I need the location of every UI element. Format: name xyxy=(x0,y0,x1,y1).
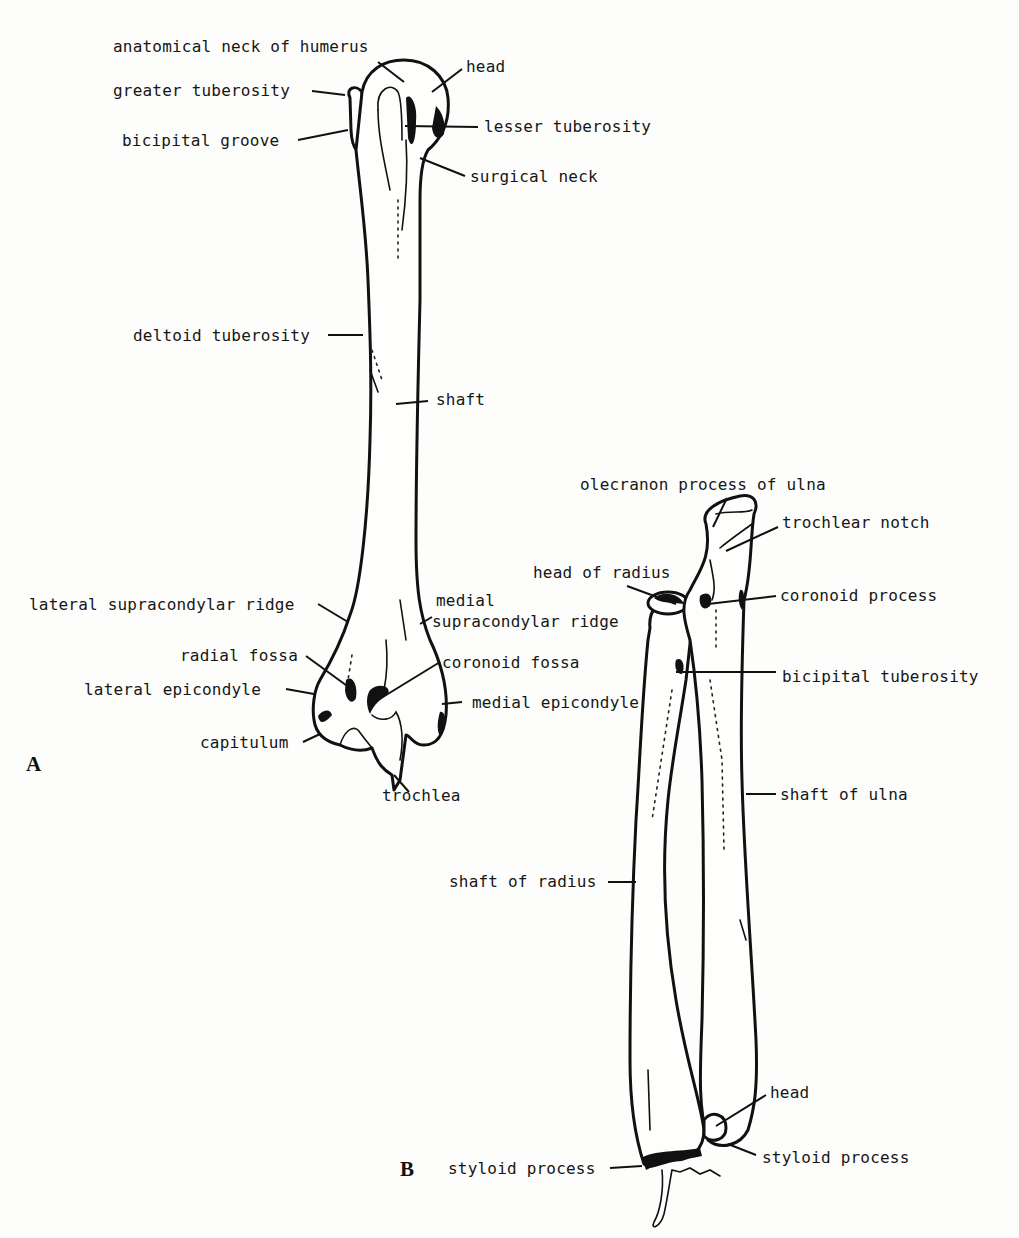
figure-letter-a: A xyxy=(26,752,41,777)
label-medial-epicondyle: medial epicondyle xyxy=(472,694,639,712)
label-trochlear-notch: trochlear notch xyxy=(782,514,930,532)
label-trochlea: trochlea xyxy=(382,787,461,805)
forearm-drawing xyxy=(630,496,757,1227)
label-head-ulna: head xyxy=(770,1084,809,1102)
label-lesser-tuberosity: lesser tuberosity xyxy=(484,118,651,136)
label-coronoid-fossa: coronoid fossa xyxy=(442,654,580,672)
label-coronoid-process: coronoid process xyxy=(780,587,937,605)
label-medial-supracondylar-ridge-line1: medial xyxy=(436,592,495,610)
label-head-of-radius: head of radius xyxy=(533,564,671,582)
label-styloid-process-radius: styloid process xyxy=(448,1160,596,1178)
anatomy-diagram: anatomical neck of humerus head greater … xyxy=(0,0,1019,1238)
label-medial-supracondylar-ridge-line2: supracondylar ridge xyxy=(432,613,619,631)
label-anatomical-neck: anatomical neck of humerus xyxy=(113,38,369,56)
signature-mark xyxy=(653,1168,720,1227)
label-shaft-of-ulna: shaft of ulna xyxy=(780,786,908,804)
label-greater-tuberosity: greater tuberosity xyxy=(113,82,290,100)
label-deltoid-tuberosity: deltoid tuberosity xyxy=(133,327,310,345)
humerus-drawing xyxy=(313,60,448,790)
label-bicipital-groove: bicipital groove xyxy=(122,132,279,150)
label-lateral-epicondyle: lateral epicondyle xyxy=(84,681,261,699)
figure-letter-b: B xyxy=(400,1157,414,1182)
label-capitulum: capitulum xyxy=(200,734,289,752)
label-surgical-neck: surgical neck xyxy=(470,168,598,186)
label-radial-fossa: radial fossa xyxy=(180,647,298,665)
label-olecranon-process: olecranon process of ulna xyxy=(580,476,826,494)
label-shaft: shaft xyxy=(436,391,485,409)
label-bicipital-tuberosity: bicipital tuberosity xyxy=(782,668,979,686)
label-shaft-of-radius: shaft of radius xyxy=(449,873,597,891)
label-lateral-supracondylar-ridge: lateral supracondylar ridge xyxy=(29,596,295,614)
label-styloid-process-ulna: styloid process xyxy=(762,1149,910,1167)
label-head-humerus: head xyxy=(466,58,505,76)
